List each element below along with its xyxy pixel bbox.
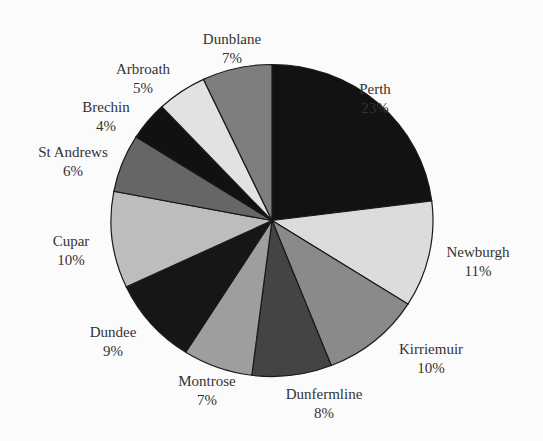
slice-label-percent: 10%	[53, 251, 90, 270]
slice-label-arbroath: Arbroath5%	[116, 60, 170, 98]
slice-label-name: St Andrews	[38, 143, 108, 162]
slice-label-name: Brechin	[82, 98, 129, 117]
pie-slice-perth	[272, 65, 432, 221]
slice-label-name: Newburgh	[446, 243, 509, 262]
slice-label-dundee: Dundee9%	[90, 323, 137, 361]
slice-label-name: Arbroath	[116, 60, 170, 79]
slice-label-percent: 6%	[38, 162, 108, 181]
slice-label-kirriemuir: Kirriemuir10%	[399, 340, 463, 378]
slice-label-cupar: Cupar10%	[53, 232, 90, 270]
slice-label-percent: 7%	[178, 391, 236, 410]
slice-label-percent: 7%	[203, 49, 261, 68]
slice-label-dunfermline: Dunfermline8%	[286, 385, 363, 423]
slice-label-name: Perth	[359, 80, 391, 99]
slice-label-percent: 8%	[286, 404, 363, 423]
slice-label-percent: 10%	[399, 359, 463, 378]
slice-label-name: Kirriemuir	[399, 340, 463, 359]
slice-label-newburgh: Newburgh11%	[446, 243, 509, 281]
slice-label-name: Dundee	[90, 323, 137, 342]
slice-label-name: Dunblane	[203, 30, 261, 49]
slice-label-brechin: Brechin4%	[82, 98, 129, 136]
slice-label-st-andrews: St Andrews6%	[38, 143, 108, 181]
slice-label-percent: 11%	[446, 262, 509, 281]
slice-label-percent: 5%	[116, 79, 170, 98]
slice-label-name: Dunfermline	[286, 385, 363, 404]
slice-label-percent: 9%	[90, 342, 137, 361]
slice-label-name: Cupar	[53, 232, 90, 251]
slice-label-perth: Perth23%	[359, 80, 391, 118]
slice-label-percent: 23%	[359, 99, 391, 118]
slice-label-montrose: Montrose7%	[178, 372, 236, 410]
pie-chart: Perth23%Newburgh11%Kirriemuir10%Dunferml…	[0, 0, 543, 441]
slice-label-dunblane: Dunblane7%	[203, 30, 261, 68]
slice-label-percent: 4%	[82, 117, 129, 136]
slice-label-name: Montrose	[178, 372, 236, 391]
